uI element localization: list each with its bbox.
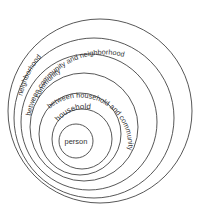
ring-between-community-neighborhood [21, 54, 157, 190]
label-household: household [53, 102, 91, 123]
label-person: person [65, 137, 88, 146]
circles [8, 19, 192, 203]
ring-outer [8, 19, 192, 203]
nested-scale-diagram: neighborhood between community and neigh… [0, 0, 201, 213]
ring-community [30, 73, 138, 181]
